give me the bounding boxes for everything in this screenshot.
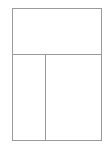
- wireframe-frame: [12, 8, 102, 141]
- bottom-left-panel: [13, 55, 46, 140]
- bottom-right-panel: [46, 55, 101, 140]
- top-panel: [13, 9, 101, 55]
